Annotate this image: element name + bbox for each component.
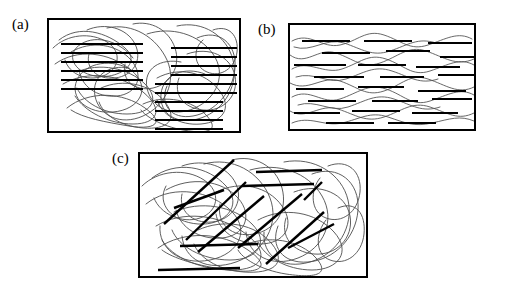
fiber — [288, 224, 334, 248]
panel-a — [47, 18, 241, 133]
panel-c-canvas — [138, 152, 368, 278]
fiber — [242, 184, 314, 186]
matrix-chain — [152, 167, 233, 224]
fiber — [256, 170, 322, 172]
panel-c-label: (c) — [112, 151, 129, 166]
fiber — [266, 212, 324, 264]
fiber — [186, 182, 246, 240]
figure-root: (a) (b) (c) — [0, 0, 507, 292]
matrix-chain — [292, 115, 474, 125]
matrix-chain — [298, 97, 440, 109]
matrix-chain — [181, 163, 238, 222]
fiber — [180, 244, 258, 246]
panel-b-label: (b) — [258, 22, 276, 37]
panel-b-canvas — [288, 23, 476, 131]
panel-a-label: (a) — [12, 17, 29, 32]
matrix-chain — [296, 69, 438, 81]
matrix-chain — [194, 224, 278, 272]
panel-b — [288, 23, 476, 131]
matrix-chain-group — [53, 23, 237, 132]
matrix-chain-group — [142, 158, 364, 275]
panel-a-canvas — [47, 18, 241, 133]
panel-c — [138, 152, 368, 278]
